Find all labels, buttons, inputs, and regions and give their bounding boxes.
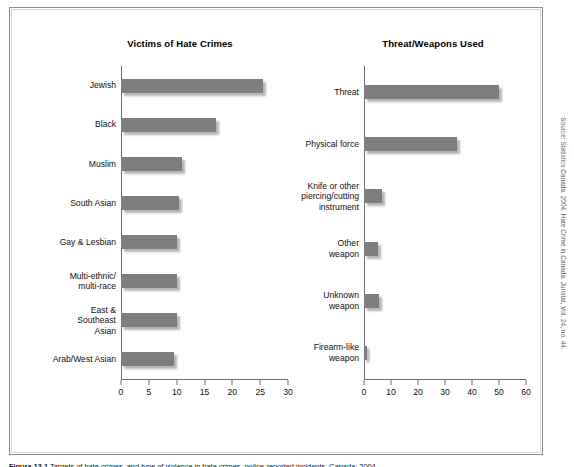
x-axis-tick-label: 5 [146, 387, 151, 397]
category-label: Other weapon [273, 238, 359, 259]
category-label: Muslim [6, 159, 116, 170]
bar [121, 118, 216, 132]
bar [121, 157, 182, 171]
x-axis-tick-label: 10 [386, 387, 396, 397]
bar-row: Other weapon [364, 223, 526, 275]
x-axis-tick [364, 380, 365, 385]
bar [121, 274, 177, 288]
bar-row: South Asian [121, 183, 288, 222]
x-axis-tick-label: 30 [283, 387, 293, 397]
x-axis-tick-label: 15 [200, 387, 210, 397]
x-axis-tick [288, 380, 289, 385]
x-axis-tick-label: 20 [228, 387, 238, 397]
chart-title-victims: Victims of Hate Crimes [16, 38, 296, 49]
x-axis-tick [445, 380, 446, 385]
category-label: Physical force [273, 139, 359, 150]
x-axis-tick [472, 380, 473, 385]
figure-page: Victims of Hate Crimes JewishBlackMuslim… [0, 0, 574, 467]
bar-row: Jewish [121, 66, 288, 105]
x-axis-tick-label: 0 [362, 387, 367, 397]
category-label: Jewish [6, 80, 116, 91]
bar-row: Threat [364, 66, 526, 118]
bar [364, 189, 382, 203]
source-credit: Source: Statistics Canada. 2004. Hate Cr… [552, 0, 574, 467]
x-axis-tick [526, 380, 527, 385]
x-axis-tick [391, 380, 392, 385]
x-axis-tick-label: 50 [494, 387, 504, 397]
category-label: Black [6, 119, 116, 130]
bar-rows-weapons: ThreatPhysical forceKnife or other pierc… [364, 66, 526, 379]
x-axis-tick-label: 10 [172, 387, 182, 397]
chart-title-weapons: Threat/Weapons Used [298, 38, 538, 49]
bar-row: Firearm-like weapon [364, 327, 526, 379]
plot-area-weapons: ThreatPhysical forceKnife or other pierc… [364, 66, 526, 380]
x-axis-tick-label: 30 [440, 387, 450, 397]
bar [121, 196, 179, 210]
bar [364, 85, 499, 99]
bar-row: Knife or other piercing/cutting instrume… [364, 170, 526, 222]
bar [121, 235, 177, 249]
category-label: Arab/West Asian [6, 354, 116, 365]
bar [121, 79, 263, 93]
category-label: Knife or other piercing/cutting instrume… [273, 181, 359, 213]
x-axis-tick-label: 25 [255, 387, 265, 397]
category-label: Gay & Lesbian [6, 237, 116, 248]
bar [364, 346, 367, 360]
figure-caption: Figure 13.1 Targets of hate crimes, and … [9, 462, 529, 467]
x-axis-tick [499, 380, 500, 385]
bar-rows-victims: JewishBlackMuslimSouth AsianGay & Lesbia… [121, 66, 288, 379]
category-label: Threat [273, 87, 359, 98]
figure-caption-text: Targets of hate crimes, and type of viol… [50, 462, 376, 467]
source-credit-text: Source: Statistics Canada. 2004. Hate Cr… [560, 117, 567, 349]
bar [364, 294, 379, 308]
x-axis-weapons: 0102030405060 [298, 380, 538, 396]
category-label: Firearm-like weapon [273, 342, 359, 363]
category-label: Unknown weapon [273, 290, 359, 311]
bar [364, 137, 457, 151]
x-axis-tick [148, 380, 149, 385]
x-axis-tick [260, 380, 261, 385]
category-label: East & Southeast Asian [6, 305, 116, 337]
bar [121, 313, 177, 327]
x-axis-victims: 051015202530 [16, 380, 296, 396]
bar-row: Physical force [364, 118, 526, 170]
bar-row: Muslim [121, 144, 288, 183]
category-label: South Asian [6, 198, 116, 209]
figure-frame: Victims of Hate Crimes JewishBlackMuslim… [9, 7, 543, 455]
plot-area-victims: JewishBlackMuslimSouth AsianGay & Lesbia… [121, 66, 288, 380]
bar-row: Black [121, 105, 288, 144]
bar-row: Unknown weapon [364, 275, 526, 327]
category-label: Multi-ethnic/ multi-race [6, 271, 116, 292]
bar-row: East & Southeast Asian [121, 301, 288, 340]
bar-row: Arab/West Asian [121, 340, 288, 379]
x-axis-tick [232, 380, 233, 385]
bar [121, 352, 174, 366]
bar-row: Gay & Lesbian [121, 223, 288, 262]
x-axis-tick-label: 20 [413, 387, 423, 397]
x-axis-tick [204, 380, 205, 385]
x-axis-tick-label: 60 [521, 387, 531, 397]
x-axis-tick-label: 40 [467, 387, 477, 397]
x-axis-tick [121, 380, 122, 385]
bar [364, 242, 378, 256]
chart-panel-weapons: Threat/Weapons Used ThreatPhysical force… [298, 38, 538, 428]
x-axis-tick-label: 0 [119, 387, 124, 397]
chart-panel-victims: Victims of Hate Crimes JewishBlackMuslim… [16, 38, 296, 428]
figure-caption-number: Figure 13.1 [9, 462, 48, 467]
x-axis-tick [418, 380, 419, 385]
x-axis-tick [176, 380, 177, 385]
bar-row: Multi-ethnic/ multi-race [121, 262, 288, 301]
